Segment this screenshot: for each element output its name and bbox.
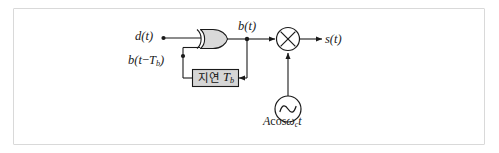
delayed-symbol: T <box>149 53 156 67</box>
delay-block-symbol: Tb <box>223 71 234 85</box>
figure-canvas: d(t) b(t) b(t−Tb) s(t) 지연Tb Acosωct <box>0 0 499 153</box>
label-input-signal: d(t) <box>135 30 153 43</box>
carrier-cos: cos <box>270 114 286 128</box>
label-delayed-signal: b(t−Tb) <box>128 54 164 68</box>
multiplier-block <box>277 28 300 51</box>
delay-symbol-T: T <box>223 70 230 84</box>
xor-gate <box>197 30 228 49</box>
delayed-minus: − <box>142 53 149 67</box>
label-output-signal: s(t) <box>325 33 342 46</box>
carrier-time: t <box>298 114 301 128</box>
junction-dot-bdelay <box>181 54 185 58</box>
delayed-prefix: b(t <box>128 53 142 67</box>
delayed-suffix: ) <box>160 53 164 67</box>
terminal-dot-dt <box>161 36 165 40</box>
delay-block-label: 지연Tb <box>193 71 239 86</box>
label-carrier: Acosωct <box>263 115 302 129</box>
delay-block-text: 지연 <box>198 73 220 85</box>
carrier-omega: ω <box>286 114 294 128</box>
delay-symbol-sub: b <box>230 76 234 85</box>
label-encoded-signal: b(t) <box>238 20 256 33</box>
